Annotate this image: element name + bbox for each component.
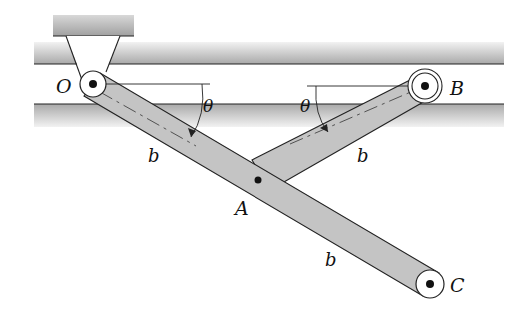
label-C: C [450, 274, 465, 296]
label-B: B [449, 77, 464, 99]
top-rail-right [240, 42, 504, 64]
pin-C [416, 270, 444, 298]
mechanism-diagram: O B A C θ θ b b b [0, 0, 525, 318]
pin-B [408, 69, 442, 103]
label-theta-right: θ [300, 96, 310, 116]
label-A: A [233, 197, 249, 219]
label-theta-left: θ [203, 96, 213, 116]
support-bracket [66, 36, 120, 72]
pin-O [80, 71, 106, 97]
label-b-AC: b [325, 249, 337, 270]
bar-AB [252, 76, 432, 190]
label-O: O [56, 75, 72, 97]
label-b-OA: b [148, 145, 160, 166]
pin-A [255, 177, 262, 184]
fixed-support-block [53, 15, 134, 36]
label-b-AB: b [357, 145, 369, 166]
